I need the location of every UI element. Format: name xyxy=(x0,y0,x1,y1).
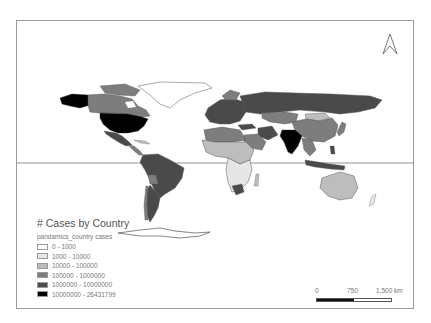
country-indonesia xyxy=(305,160,345,170)
region-caribbean xyxy=(134,140,150,144)
region-antarctica xyxy=(118,228,210,238)
scale-label-0: 0 xyxy=(315,287,319,294)
legend-swatch xyxy=(37,244,48,250)
legend-label: 10000000 - 26431799 xyxy=(52,291,116,298)
legend-item: 100000 - 1000000 xyxy=(37,271,129,281)
legend-label: 10000 - 100000 xyxy=(52,262,98,269)
region-central-america xyxy=(128,145,143,155)
legend-label: 100000 - 1000000 xyxy=(52,272,105,279)
region-scandinavia xyxy=(222,90,240,100)
legend-item: 1000 - 10000 xyxy=(37,252,129,262)
legend-swatch xyxy=(37,272,48,278)
country-australia xyxy=(320,172,358,200)
scale-segment-black xyxy=(317,299,354,301)
scale-label-1500: 1,500 km xyxy=(376,287,403,294)
scale-label-750: 750 xyxy=(347,287,358,294)
legend-label: 0 - 1000 xyxy=(52,243,76,250)
scale-labels: 0 750 1,500 km xyxy=(316,287,392,296)
country-mexico xyxy=(104,131,132,146)
legend-item: 10000000 - 26431799 xyxy=(37,290,129,300)
region-europe xyxy=(205,98,246,124)
legend-swatch xyxy=(37,282,48,288)
country-india xyxy=(280,130,302,154)
legend-item: 10000 - 100000 xyxy=(37,261,129,271)
region-north-africa xyxy=(204,127,246,142)
legend-title: # Cases by Country xyxy=(37,217,129,229)
legend-item: 0 - 1000 xyxy=(37,242,129,252)
legend-field-name: pandamics_country cases xyxy=(37,233,129,240)
country-south-africa xyxy=(232,184,244,195)
country-usa-alaska xyxy=(60,94,90,108)
scale-bar: 0 750 1,500 km xyxy=(316,287,392,302)
legend-item: 1000000 - 10000000 xyxy=(37,280,129,290)
map-legend: # Cases by Country pandamics_country cas… xyxy=(37,217,129,299)
country-philippines xyxy=(330,146,335,154)
country-greenland xyxy=(138,82,212,108)
legend-swatch xyxy=(37,291,48,297)
country-turkey xyxy=(238,124,256,130)
country-madagascar xyxy=(254,174,259,186)
country-new-zealand xyxy=(369,194,376,206)
north-arrow-icon xyxy=(380,32,400,58)
country-russia xyxy=(240,92,382,114)
country-bolivia xyxy=(148,175,158,184)
country-japan xyxy=(337,122,346,136)
legend-swatch xyxy=(37,263,48,269)
scale-bar-track xyxy=(316,298,392,302)
scale-segment-white xyxy=(354,299,391,301)
legend-label: 1000 - 10000 xyxy=(52,253,90,260)
legend-label: 1000000 - 10000000 xyxy=(52,281,112,288)
legend-swatch xyxy=(37,253,48,259)
